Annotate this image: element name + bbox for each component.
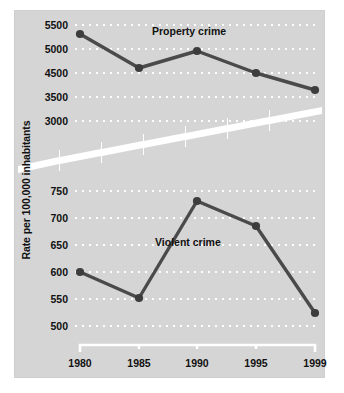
y-tick-label-5500: 5500 — [22, 19, 68, 31]
violent-crime-label: Violent crime — [155, 236, 221, 248]
property-crime-point-1990 — [193, 47, 201, 55]
y-tick-label-550: 550 — [22, 293, 68, 305]
y-tick-label-700: 700 — [22, 212, 68, 224]
property-crime-line — [80, 34, 315, 90]
property-crime-point-1999 — [311, 86, 319, 94]
violent-crime-point-1990 — [193, 197, 201, 205]
y-tick-label-3000: 3000 — [22, 115, 68, 127]
property-crime-point-1980 — [76, 30, 84, 38]
upper-gridlines — [75, 25, 320, 121]
y-tick-label-650: 650 — [22, 239, 68, 251]
x-tick-label-1999: 1999 — [290, 357, 340, 369]
lower-gridlines — [75, 191, 320, 326]
y-tick-label-500: 500 — [22, 320, 68, 332]
property-crime-series — [76, 30, 319, 94]
x-tick-label-1990: 1990 — [172, 357, 222, 369]
y-tick-label-4500: 4500 — [22, 67, 68, 79]
x-tick-label-1980: 1980 — [55, 357, 105, 369]
property-crime-label: Property crime — [152, 25, 226, 37]
x-tick-label-1995: 1995 — [231, 357, 281, 369]
y-tick-label-750: 750 — [22, 185, 68, 197]
violent-crime-point-1999 — [311, 309, 319, 317]
property-crime-point-1985 — [135, 64, 143, 72]
crime-rate-line-chart: Rate per 100,000 inhabitants 5500 5000 4… — [0, 0, 344, 393]
violent-crime-series — [76, 197, 319, 317]
violent-crime-point-1985 — [135, 294, 143, 302]
violent-crime-point-1980 — [76, 268, 84, 276]
y-tick-label-600: 600 — [22, 266, 68, 278]
y-tick-label-5000: 5000 — [22, 43, 68, 55]
x-tick-label-1985: 1985 — [114, 357, 164, 369]
y-tick-label-3500: 3500 — [22, 91, 68, 103]
x-axis-bracket — [80, 345, 315, 352]
property-crime-point-1995 — [252, 69, 260, 77]
violent-crime-point-1995 — [252, 222, 260, 230]
